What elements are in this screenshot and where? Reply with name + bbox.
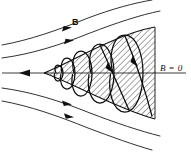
zero-field-label: B = 0 [160, 64, 183, 73]
field-arrowheads-upper [62, 26, 74, 44]
magnetic-field-figure: B B = 0 [0, 0, 191, 153]
axis-arrowhead-left [19, 69, 30, 76]
arrowhead-lower-outer [64, 113, 74, 119]
magnetic-field-label: B [72, 18, 79, 27]
arrowhead-lower-inner [62, 100, 72, 106]
figure-canvas [0, 0, 191, 153]
arrowhead-upper-outer [62, 26, 72, 31]
field-arrowheads-lower [62, 100, 74, 118]
